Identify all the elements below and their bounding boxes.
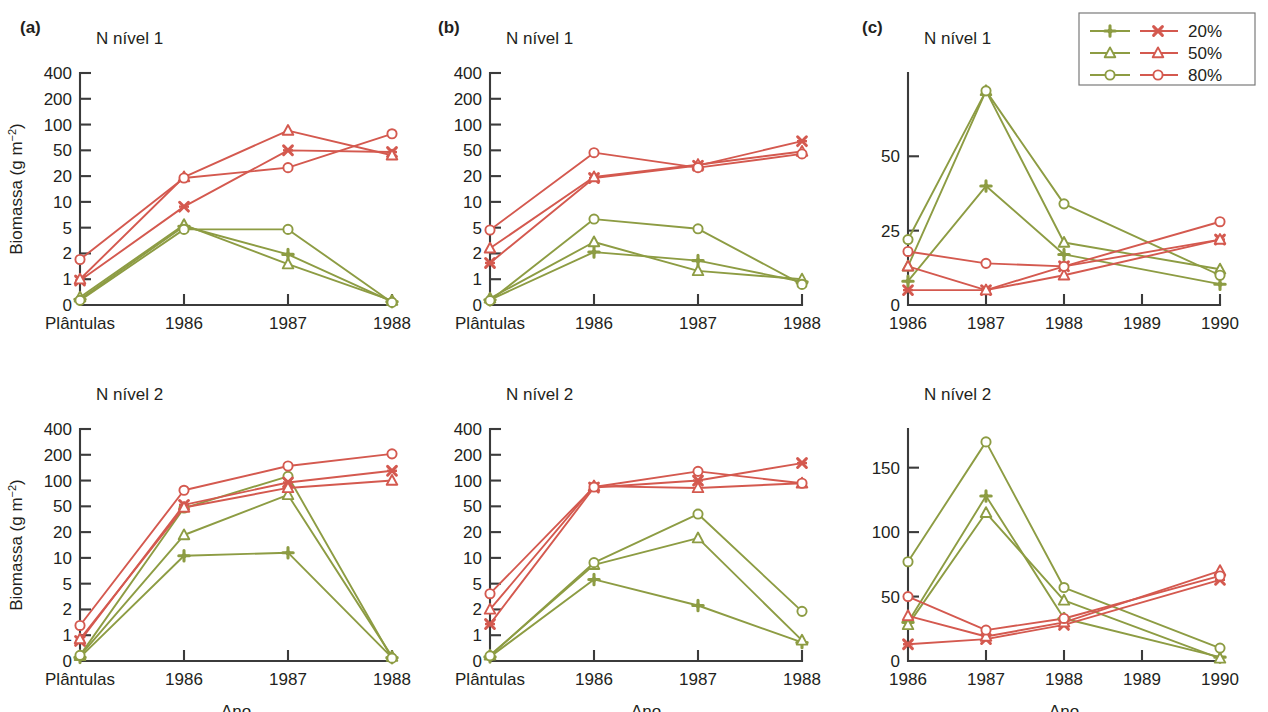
data-point — [797, 479, 806, 488]
svg-text:1986: 1986 — [575, 670, 613, 689]
data-point — [1215, 217, 1224, 226]
svg-text:50: 50 — [881, 588, 900, 607]
data-point — [1215, 653, 1226, 663]
svg-text:1987: 1987 — [679, 670, 717, 689]
x-axis-ticks: 19861987198819891990 — [889, 294, 1239, 333]
svg-text:50: 50 — [53, 141, 72, 160]
svg-text:25: 25 — [881, 222, 900, 241]
svg-text:1986: 1986 — [889, 670, 927, 689]
svg-text:1988: 1988 — [373, 314, 411, 333]
y-axis-label: Biomassa (g m−2) — [6, 123, 26, 255]
svg-text:1986: 1986 — [889, 314, 927, 333]
svg-text:1989: 1989 — [1123, 670, 1161, 689]
svg-text:200: 200 — [44, 446, 72, 465]
svg-text:1987: 1987 — [269, 670, 307, 689]
data-point — [693, 509, 702, 518]
data-point — [283, 461, 292, 470]
svg-text:10: 10 — [463, 193, 482, 212]
data-point — [903, 247, 912, 256]
svg-text:100: 100 — [454, 472, 482, 491]
panel-letter: (a) — [20, 18, 41, 38]
panel-title: N nível 1 — [506, 29, 573, 48]
svg-text:1986: 1986 — [165, 314, 203, 333]
data-point — [179, 486, 188, 495]
svg-text:100: 100 — [44, 116, 72, 135]
legend: 20%50%80% — [1078, 12, 1256, 86]
data-point — [485, 589, 494, 598]
svg-text:5: 5 — [63, 575, 72, 594]
y-axis-ticks: 0125102050100200400 — [454, 64, 501, 315]
series-line — [80, 471, 392, 641]
data-point — [387, 466, 397, 475]
data-point — [589, 247, 599, 257]
svg-text:1986: 1986 — [165, 670, 203, 689]
svg-text:20: 20 — [463, 523, 482, 542]
series-line — [490, 579, 802, 656]
data-point — [693, 255, 703, 265]
svg-text:1990: 1990 — [1201, 670, 1239, 689]
svg-text:0: 0 — [63, 296, 72, 315]
chart-a-bottom: 0125102050100200400Plântulas198619871988… — [0, 356, 430, 712]
svg-text:50: 50 — [463, 497, 482, 516]
x-axis-ticks: Plântulas198619871988 — [45, 650, 411, 689]
data-point — [283, 146, 293, 155]
svg-text:400: 400 — [44, 64, 72, 83]
data-point — [179, 225, 188, 234]
svg-text:Plântulas: Plântulas — [45, 314, 115, 333]
data-point — [179, 173, 188, 182]
series-line — [80, 454, 392, 626]
data-point — [693, 600, 703, 610]
x-axis-ticks: Plântulas198619871988 — [455, 294, 821, 333]
series-line — [490, 538, 802, 655]
svg-text:50: 50 — [53, 497, 72, 516]
svg-text:0: 0 — [891, 652, 900, 671]
svg-text:1: 1 — [63, 626, 72, 645]
svg-text:1988: 1988 — [783, 314, 821, 333]
x-axis-label: Ano — [631, 702, 661, 712]
data-point — [1215, 571, 1224, 580]
svg-text:2: 2 — [63, 244, 72, 263]
svg-text:10: 10 — [463, 549, 482, 568]
data-point — [797, 149, 806, 158]
data-point — [1215, 644, 1224, 653]
panel-title: N nível 2 — [506, 385, 573, 404]
svg-text:0: 0 — [473, 652, 482, 671]
data-point — [797, 137, 807, 146]
data-point — [283, 125, 294, 135]
data-point — [797, 280, 806, 289]
data-point — [589, 148, 598, 157]
data-point — [981, 507, 992, 517]
svg-text:1: 1 — [63, 270, 72, 289]
svg-text:400: 400 — [454, 420, 482, 439]
panel-title: N nível 2 — [96, 385, 163, 404]
data-point — [283, 259, 294, 269]
svg-text:1: 1 — [473, 270, 482, 289]
svg-text:200: 200 — [454, 90, 482, 109]
svg-text:Plântulas: Plântulas — [455, 670, 525, 689]
svg-text:Biomassa (g m−2): Biomassa (g m−2) — [6, 123, 26, 255]
data-point — [589, 558, 598, 567]
panel-a-bottom: 0125102050100200400Plântulas198619871988… — [0, 356, 430, 712]
data-point — [283, 225, 292, 234]
svg-text:1988: 1988 — [373, 670, 411, 689]
data-point — [903, 610, 914, 620]
data-point — [693, 163, 702, 172]
svg-text:1988: 1988 — [1045, 670, 1083, 689]
data-point — [1059, 237, 1070, 247]
data-point — [485, 651, 494, 660]
panel-c-bottom: 05010015019861987198819891990N nível 2An… — [848, 356, 1268, 712]
data-point — [179, 529, 190, 539]
series-line — [490, 219, 802, 301]
series-line — [80, 225, 392, 301]
data-point — [981, 437, 990, 446]
data-point — [797, 607, 806, 616]
series-line — [80, 553, 392, 658]
data-point — [75, 296, 84, 305]
panel-title: N nível 1 — [924, 29, 991, 48]
data-point — [387, 449, 396, 458]
series-line — [490, 242, 802, 298]
panel-letter: (b) — [438, 18, 460, 38]
data-point — [1059, 583, 1068, 592]
svg-text:1987: 1987 — [269, 314, 307, 333]
data-point — [693, 533, 704, 543]
